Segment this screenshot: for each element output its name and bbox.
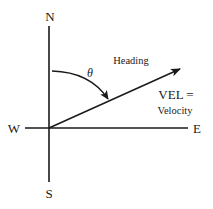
heading-angle-arc <box>52 71 108 99</box>
north-label: N <box>45 9 55 24</box>
theta-angle-label: θ <box>87 66 93 80</box>
velocity-label-line1: VEL = <box>158 87 193 102</box>
velocity-label-line2: Velocity <box>158 105 194 116</box>
west-label: W <box>8 121 21 136</box>
east-label: E <box>193 121 201 136</box>
compass-heading-diagram: N S W E θ Heading VEL = Velocity <box>0 0 213 209</box>
south-label: S <box>45 186 52 201</box>
heading-label: Heading <box>113 55 149 66</box>
